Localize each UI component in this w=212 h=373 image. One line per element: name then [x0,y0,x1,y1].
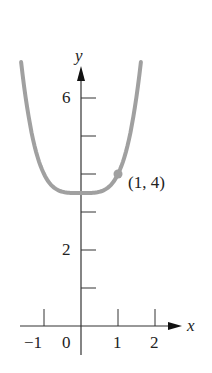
x-tick-label-2: 2 [150,334,159,351]
x-tick-label-1: 1 [113,334,122,351]
x-tick-label-0: 0 [62,334,71,351]
y-tick-label-6: 6 [62,89,71,106]
point-annotation: (1, 4) [128,174,165,191]
point-marker [114,170,123,179]
axes [20,66,182,355]
x-tick-label-neg1: −1 [24,334,42,351]
chart-canvas [0,0,212,373]
x-axis-label: x [187,317,195,334]
y-axis-arrow-icon [77,66,85,81]
y-axis-label: y [75,47,83,64]
y-tick-label-2: 2 [62,241,71,258]
x-axis-arrow-icon [168,322,182,330]
